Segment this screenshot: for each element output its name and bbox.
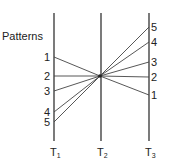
convergence-point xyxy=(98,74,102,78)
axis-label-t1: T1 xyxy=(50,146,61,159)
pattern-line-1-t1-t2 xyxy=(54,57,100,76)
axis-label-t2: T2 xyxy=(97,146,108,159)
t3-pattern-labels: 54321 xyxy=(151,21,157,101)
t3-label-4: 4 xyxy=(151,36,157,48)
t3-label-5: 5 xyxy=(151,21,157,33)
pattern-line-5-t1-t2 xyxy=(54,76,100,122)
patterns-title: Patterns xyxy=(2,30,43,42)
pattern-line-4-t2-t3 xyxy=(100,76,149,77)
t1-label-1: 1 xyxy=(44,51,50,63)
t1-label-2: 2 xyxy=(44,70,50,82)
t1-label-3: 3 xyxy=(44,85,50,97)
t1-pattern-labels: 12345 xyxy=(44,51,50,128)
pattern-diagram: Patterns 12345 54321 T1 T2 T3 xyxy=(0,0,172,167)
axis-label-t3: T3 xyxy=(145,146,156,159)
pattern-line-2-t2-t3 xyxy=(100,42,149,76)
t3-label-2: 2 xyxy=(151,71,157,83)
pattern-line-4-t1-t2 xyxy=(54,76,100,112)
t3-label-3: 3 xyxy=(151,56,157,68)
t1-label-5: 5 xyxy=(44,116,50,128)
t3-label-1: 1 xyxy=(151,89,157,101)
pattern-line-5-t2-t3 xyxy=(100,76,149,95)
